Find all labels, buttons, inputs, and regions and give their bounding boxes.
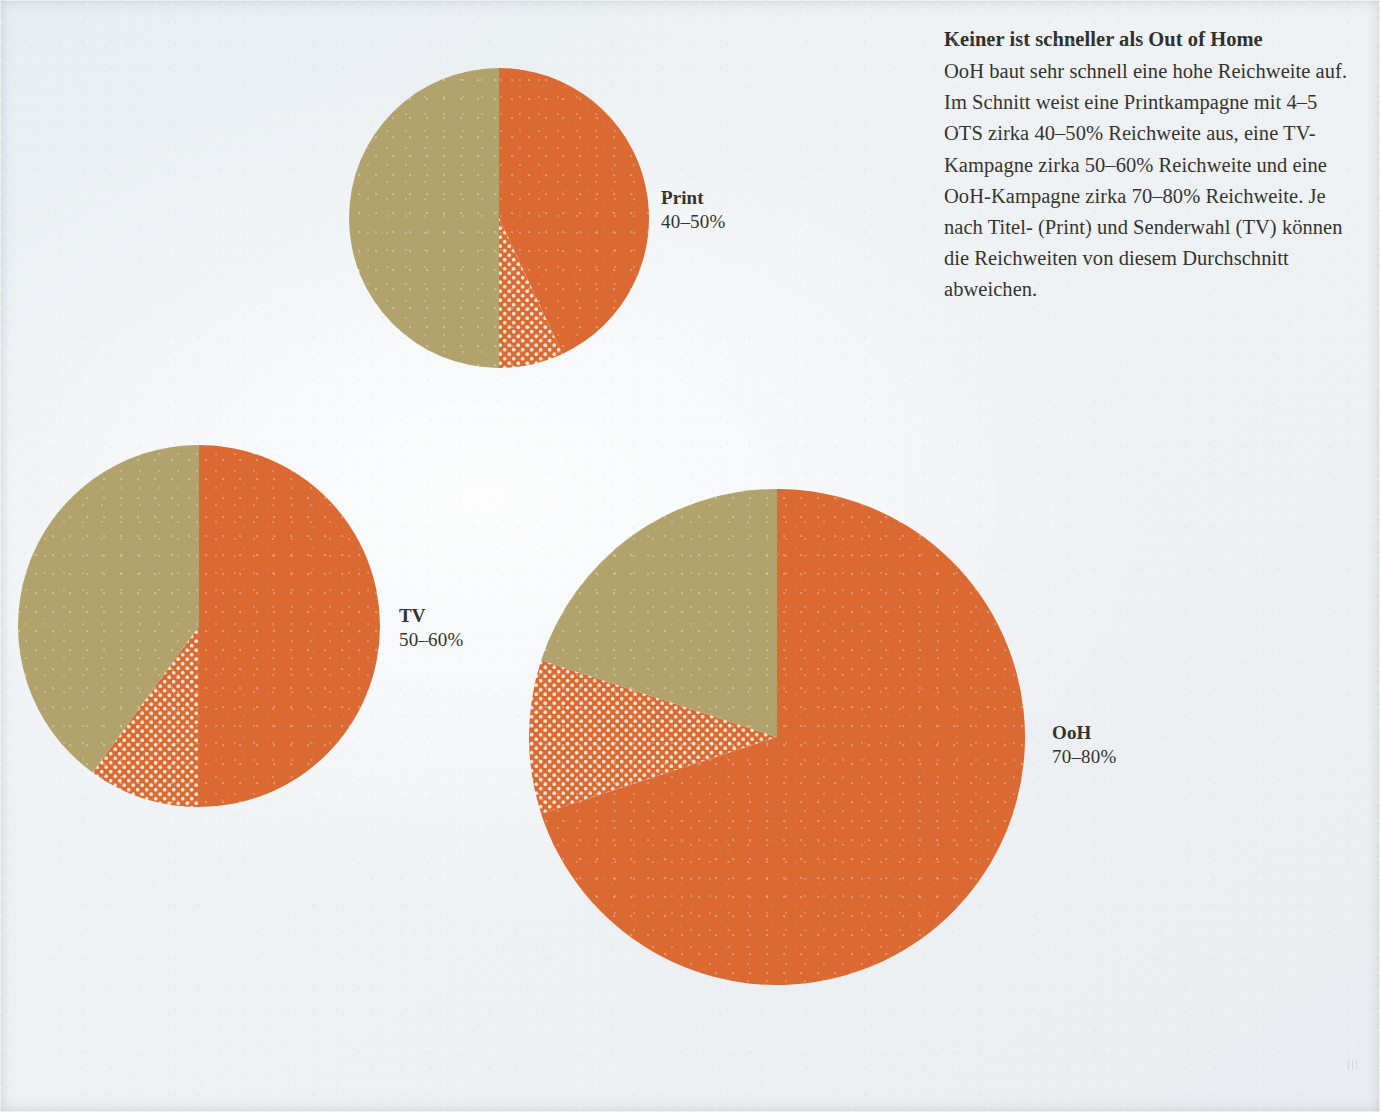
pie-label-tv-name: TV xyxy=(399,604,464,628)
pie-chart-print xyxy=(345,64,653,372)
pie-chart-ooh xyxy=(525,485,1029,989)
pie-label-print-value: 40–50% xyxy=(661,210,726,234)
pie-slice-tv-reach_solid xyxy=(199,445,380,807)
pie-label-ooh-name: OoH xyxy=(1052,721,1117,745)
pie-slice-print-remainder xyxy=(349,68,499,368)
pie-label-print: Print 40–50% xyxy=(661,186,726,235)
pie-label-ooh-value: 70–80% xyxy=(1052,745,1117,769)
side-copy-block: Keiner ist schneller als Out of Home OoH… xyxy=(944,24,1350,305)
pie-label-print-name: Print xyxy=(661,186,726,210)
pie-chart-tv xyxy=(14,441,384,811)
pie-label-ooh: OoH 70–80% xyxy=(1052,721,1117,770)
copy-body: OoH baut sehr schnell eine hohe Reichwei… xyxy=(944,56,1350,305)
page-corner-mark xyxy=(1348,1060,1360,1070)
pie-label-tv-value: 50–60% xyxy=(399,628,464,652)
copy-heading: Keiner ist schneller als Out of Home xyxy=(944,24,1350,55)
pie-label-tv: TV 50–60% xyxy=(399,604,464,653)
